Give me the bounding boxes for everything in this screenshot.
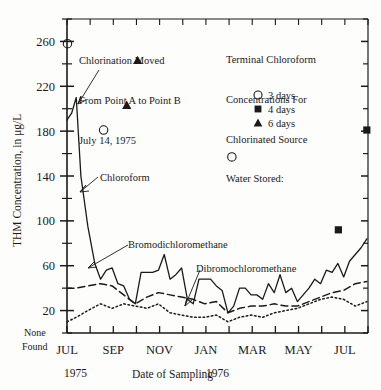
y-axis-tick-label: 140 xyxy=(36,170,55,184)
legend-item-4-days: 4 days xyxy=(268,104,295,115)
legend-title-line-4: Water Stored: xyxy=(226,172,316,185)
y-axis-tick-label: 60 xyxy=(43,259,56,273)
chloroform-annotation: Chloroform xyxy=(100,172,150,183)
x-axis-year-1976: 1976 xyxy=(206,367,229,379)
chlorination-note-line-2: From Point A to Point B xyxy=(79,94,181,107)
legend-title-line-1: Terminal Chloroform xyxy=(226,53,316,66)
x-axis-tick-label: JAN xyxy=(194,343,217,357)
x-axis-tick-label: NOV xyxy=(146,343,173,357)
x-axis-tick-label: JUL xyxy=(56,343,78,357)
chlorination-note-line-3: July 14, 1975 xyxy=(79,134,181,147)
series-line-dibromochloromethane xyxy=(67,297,367,322)
chart-figure: 2060100140180220260JULSEPNOVJANMARMAYJUL… xyxy=(0,0,381,390)
y-axis-tick-label: 100 xyxy=(36,214,55,228)
legend-item-6-days: 6 days xyxy=(268,118,295,129)
legend-title-line-3: Chlorinated Source xyxy=(226,133,316,146)
x-axis-tick-label: SEP xyxy=(103,343,125,357)
bromodichloromethane-annotation: Bromodichloromethane xyxy=(128,239,228,250)
legend-item-3-days: 3 days xyxy=(268,90,295,101)
y-axis-none-found-label-line1: None xyxy=(24,327,46,338)
y-axis-tick-label: 220 xyxy=(36,80,55,94)
y-axis-tick-label: 180 xyxy=(36,125,55,139)
data-marker-square-181 xyxy=(363,126,370,133)
x-axis-tick-label: MAY xyxy=(285,343,313,357)
chlorination-moved-annotation: Chlorination Moved From Point A to Point… xyxy=(79,27,181,174)
thm-concentration-line-chart: 2060100140180220260JULSEPNOVJANMARMAYJUL xyxy=(0,0,381,390)
x-axis-year-1975: 1975 xyxy=(64,367,87,379)
y-axis-none-found-label-line2: Found xyxy=(22,341,48,352)
dibromochloromethane-annotation: Dibromochloromethane xyxy=(196,263,296,274)
data-marker-square-92 xyxy=(335,226,342,233)
y-axis-tick-label: 20 xyxy=(43,304,56,318)
y-axis-tick-label: 260 xyxy=(36,35,55,49)
x-axis-title: Date of Sampling xyxy=(132,368,213,380)
y-axis-title: THM Concentration, in μg/L xyxy=(0,106,35,266)
x-axis-tick-label: MAR xyxy=(238,343,267,357)
x-axis-tick-label: JUL xyxy=(334,343,356,357)
chlorination-note-line-1: Chlorination Moved xyxy=(79,54,181,67)
leader-line-dibromochloromethane xyxy=(185,270,200,306)
